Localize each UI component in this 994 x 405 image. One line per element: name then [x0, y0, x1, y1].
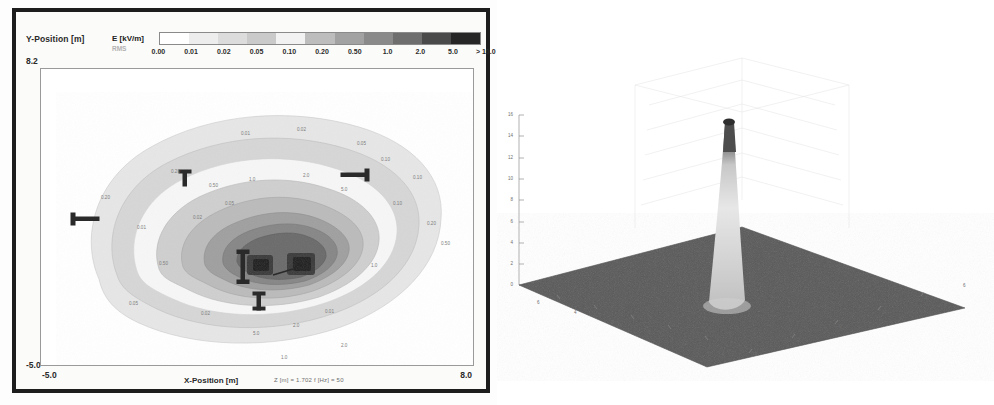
contour-value-label: 0.02 — [201, 311, 210, 316]
contour-value-label: 0.50 — [441, 241, 450, 246]
colorbar-gradient — [159, 32, 481, 45]
x-axis-min-tick: -5.0 — [42, 370, 57, 380]
contour-field-graphic: 0.010.020.050.100.200.501.02.05.00.010.0… — [41, 69, 473, 365]
surface-plot-panel: 80 kV / 178 kV E [kV/m] x[m] y[m] — [497, 0, 994, 405]
surface-z-tick: 8 — [499, 197, 513, 202]
surface-z-tick: 2 — [499, 261, 513, 266]
contour-value-label: 0.10 — [393, 201, 402, 206]
surface-x-tick: -4 — [720, 352, 724, 357]
surface-z-tick: 0 — [499, 282, 513, 287]
contour-value-label: 0.02 — [297, 127, 306, 132]
colorbar-tick-6: 0.50 — [338, 48, 371, 55]
surface-z-tick: 14 — [499, 133, 513, 138]
contour-value-label: 0.20 — [101, 195, 110, 200]
colorbar-tick-0: 0.00 — [142, 48, 175, 55]
colorbar-tick-5: 0.20 — [306, 48, 339, 55]
contour-plot-canvas: Y-Position [m] 8.2 -5.0 -5.0 8.0 X-Posit… — [16, 12, 486, 389]
contour-value-label: 0.01 — [325, 309, 334, 314]
colorbar-tick-labels: 0.000.010.020.050.100.200.501.02.05.0> 1… — [142, 48, 502, 55]
scan-parameters-annotation: Z [m] = 1.702 f [Hz] = 50 — [274, 377, 344, 383]
colorbar-band-8 — [393, 33, 422, 44]
contour-value-label: 0.50 — [209, 183, 218, 188]
surface-y-tick: 0 — [839, 324, 842, 329]
contour-value-label: 0.50 — [159, 261, 168, 266]
contour-value-label: 5.0 — [341, 187, 348, 192]
surface-x-tick: 6 — [537, 300, 540, 305]
surface-z-tick: 16 — [499, 112, 513, 117]
contour-plot-panel: Y-Position [m] 8.2 -5.0 -5.0 8.0 X-Posit… — [12, 8, 490, 393]
colorbar-band-9 — [422, 33, 451, 44]
contour-value-label: 1.0 — [249, 177, 256, 182]
colorbar-band-10 — [451, 33, 480, 44]
colorbar-tick-3: 0.05 — [240, 48, 273, 55]
contour-value-label: 5.0 — [253, 331, 260, 336]
contour-value-label: 2.0 — [303, 173, 310, 178]
contour-value-label: 0.01 — [241, 131, 250, 136]
contour-value-label: 0.05 — [225, 201, 234, 206]
surface-y-tick: 6 — [963, 283, 966, 288]
contour-value-label: 0.02 — [193, 215, 202, 220]
surface-z-tick: 12 — [499, 155, 513, 160]
colorbar-tick-7: 1.0 — [371, 48, 404, 55]
contour-value-label: 2.0 — [341, 343, 348, 348]
colorbar-band-7 — [364, 33, 393, 44]
contour-value-label: 0.20 — [171, 169, 180, 174]
colorbar-tick-2: 0.02 — [207, 48, 240, 55]
contour-value-label: 1.0 — [281, 355, 288, 360]
y-axis-min-tick: -5.0 — [26, 360, 41, 370]
colorbar-tick-4: 0.10 — [273, 48, 306, 55]
contour-value-label: 0.05 — [357, 141, 366, 146]
contour-value-label: 0.10 — [413, 175, 422, 180]
contour-plot-frame: 0.010.020.050.100.200.501.02.05.00.010.0… — [40, 68, 474, 366]
colorbar-band-0 — [160, 33, 189, 44]
colorbar-tick-8: 2.0 — [404, 48, 437, 55]
surface-graphic — [497, 0, 994, 405]
colorbar-title: E [kV/m] — [112, 34, 144, 43]
surface-y-tick: 2 — [882, 310, 885, 315]
surface-y-tick: -4 — [753, 352, 757, 357]
contour-value-label: 0.20 — [427, 221, 436, 226]
colorbar-band-2 — [218, 33, 247, 44]
y-axis-max-tick: 8.2 — [26, 56, 38, 66]
surface-y-tick: -2 — [796, 338, 800, 343]
colorbar-tick-1: 0.01 — [175, 48, 208, 55]
x-axis-max-tick: 8.0 — [460, 370, 472, 380]
colorbar-subtitle: RMS — [112, 45, 126, 52]
colorbar-band-5 — [305, 33, 334, 44]
surface-x-tick: 0 — [648, 330, 651, 335]
surface-x-tick: 2 — [611, 320, 614, 325]
colorbar-band-1 — [189, 33, 218, 44]
colorbar-tick-9: 5.0 — [437, 48, 470, 55]
surface-z-tick: 4 — [499, 240, 513, 245]
contour-value-label: 2.0 — [293, 323, 300, 328]
x-axis-title: X-Position [m] — [184, 376, 238, 385]
colorbar-band-6 — [335, 33, 364, 44]
colorbar-band-4 — [276, 33, 305, 44]
surface-z-tick: 6 — [499, 219, 513, 224]
contour-value-label: 1.0 — [371, 263, 378, 268]
surface-x-tick: 4 — [574, 310, 577, 315]
contour-value-label: 0.01 — [137, 225, 146, 230]
screenshot-root: Y-Position [m] 8.2 -5.0 -5.0 8.0 X-Posit… — [0, 0, 994, 405]
surface-z-tick: 10 — [499, 176, 513, 181]
contour-value-label: 0.05 — [129, 301, 138, 306]
colorbar-band-3 — [247, 33, 276, 44]
surface-y-tick: 4 — [925, 296, 928, 301]
surface-x-tick: -2 — [683, 341, 687, 346]
contour-value-label: 0.10 — [381, 157, 390, 162]
y-axis-title: Y-Position [m] — [26, 34, 85, 44]
